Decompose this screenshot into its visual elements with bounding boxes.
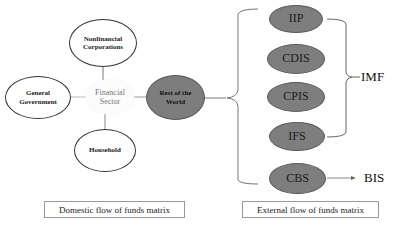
node-ifs: IFS — [269, 122, 325, 151]
imf-label: IMF — [361, 69, 384, 85]
node-label: Financial Sector — [86, 88, 134, 106]
arrow-head-icon — [351, 176, 356, 180]
node-label: General Government — [6, 89, 70, 105]
node-general-government: General Government — [5, 76, 71, 119]
caption-text: Domestic flow of funds matrix — [59, 205, 170, 215]
node-rest-of-the-world: Rest of the World — [146, 75, 205, 120]
node-label: Nonfinancial Corporations — [70, 35, 136, 51]
node-label: CDIS — [282, 52, 309, 66]
bis-label: BIS — [364, 170, 384, 186]
domestic-caption: Domestic flow of funds matrix — [44, 201, 185, 218]
node-label: Household — [89, 146, 121, 154]
imf-brace — [327, 19, 352, 137]
node-nonfinancial-corporations: Nonfinancial Corporations — [69, 19, 137, 67]
node-label: IFS — [288, 130, 305, 144]
caption-text: External flow of funds matrix — [257, 205, 364, 215]
flow-of-funds-diagram: Nonfinancial Corporations General Govern… — [0, 0, 398, 225]
node-iip: IIP — [269, 5, 323, 33]
external-caption: External flow of funds matrix — [242, 201, 379, 218]
node-household: Household — [74, 129, 136, 172]
node-label: CPIS — [283, 90, 308, 104]
external-brace — [227, 9, 258, 184]
node-cbs: CBS — [269, 163, 326, 194]
node-label: IIP — [289, 12, 304, 26]
node-cpis: CPIS — [267, 82, 325, 112]
node-financial-sector: Financial Sector — [86, 80, 134, 114]
node-label: Rest of the World — [147, 89, 204, 105]
node-label: CBS — [286, 172, 309, 186]
node-cdis: CDIS — [267, 44, 325, 74]
